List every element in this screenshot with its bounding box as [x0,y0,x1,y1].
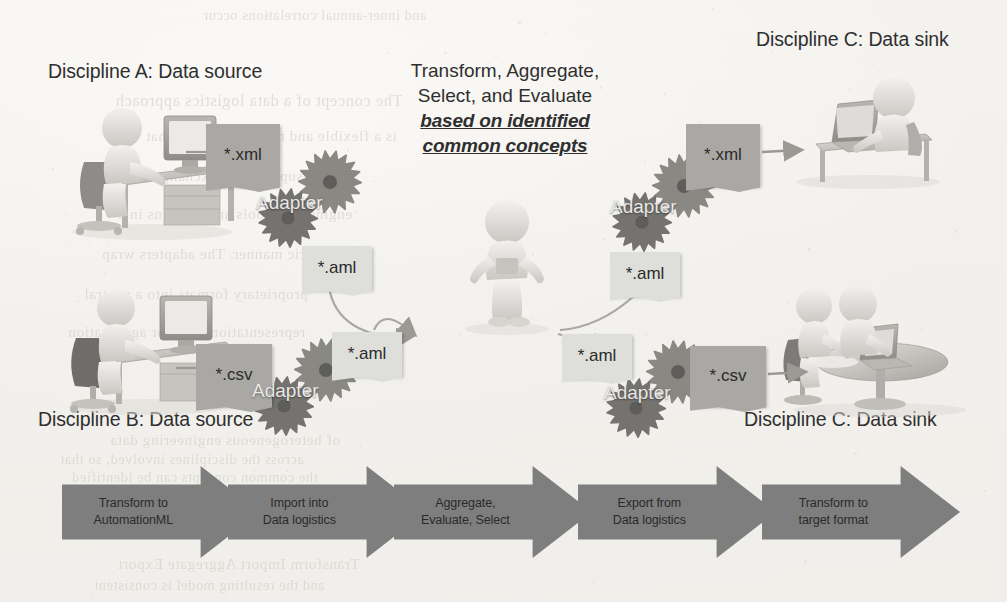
document-label: *.aml [318,258,357,278]
scan-speck [28,36,29,37]
scan-speck [21,323,22,324]
step-line-2: target format [799,512,869,529]
scan-speck [762,272,763,273]
centre-caption: Transform, Aggregate, Select, and Evalua… [355,58,655,158]
scan-speck [854,452,857,455]
process-step-band: Transform toAutomationMLImport intoData … [0,466,1007,558]
scan-speck [645,334,647,336]
document-doc-c-csv: *.csv [690,346,766,406]
process-step-step-export-from-data-logistics: Export fromData logistics [578,466,776,558]
document-label: *.csv [710,366,747,386]
scan-speck [170,23,172,25]
scan-speck [355,49,356,50]
scan-speck [444,52,446,54]
step-line-1: Transform to [99,495,168,512]
caption-line-2: Select, and Evaluate [355,83,655,108]
step-line-1: Import into [270,495,328,512]
scan-speck [808,248,810,250]
scan-speck [946,584,947,585]
adapter-label: Adapter [610,196,677,218]
caption-line-1: Transform, Aggregate, [355,58,655,83]
document-doc-a-aml: *.aml [302,246,372,290]
person-at-laptop-discipline-c-top [776,60,956,194]
document-label: *.xml [224,145,262,165]
scan-speck [266,15,268,17]
document-doc-b-aml: *.aml [332,332,402,376]
document-label: *.xml [704,145,742,165]
process-step-step-aggregate-evaluate-select: Aggregate,Evaluate, Select [394,466,592,558]
scan-speck [30,361,31,362]
central-integrator-person [452,196,562,340]
scan-speck [269,576,271,578]
document-label: *.aml [626,264,665,284]
scan-speck [955,230,957,232]
scan-speck [985,375,986,376]
scan-speck [889,435,890,436]
scan-speck [283,103,285,105]
scan-speck [259,299,260,300]
document-doc-a-xml: *.xml [206,124,280,186]
step-line-2: Data logistics [613,512,686,529]
document-doc-c-aml-bottom: *.aml [562,334,632,378]
document-doc-c-xml: *.xml [686,124,760,186]
document-label: *.csv [216,365,253,385]
scan-speck [792,258,793,259]
scan-speck [931,271,933,273]
heading-discipline-a: Discipline A: Data source [48,60,262,83]
scan-speck [518,21,521,24]
adapter-label: Adapter [256,192,323,214]
two-people-at-round-table-discipline-c-bottom [780,282,980,421]
adapter-label: Adapter [604,382,671,404]
scan-speck [541,168,542,169]
step-line-2: AutomationML [94,512,173,529]
scan-speck [104,273,106,275]
step-line-2: Evaluate, Select [421,512,510,529]
step-line-1: Transform to [799,495,868,512]
document-label: *.aml [348,344,387,364]
scan-speck [90,596,91,597]
step-line-2: Data logistics [263,512,336,529]
step-line-1: Export from [618,495,682,512]
step-line-1: Aggregate, [435,495,495,512]
heading-discipline-c-top: Discipline C: Data sink [756,28,949,51]
document-label: *.aml [578,346,617,366]
scan-speck [166,1,167,2]
adapter-label: Adapter [252,380,319,402]
process-step-step-transform-to-target-format: Transform totarget format [762,466,960,558]
scan-speck [52,168,54,170]
scan-speck [804,560,807,563]
scan-speck [405,307,406,308]
document-doc-c-aml-top: *.aml [610,252,680,296]
scan-speck [317,13,319,15]
scan-speck [677,95,678,96]
caption-emphasis-line-1: based on identified [355,108,655,133]
